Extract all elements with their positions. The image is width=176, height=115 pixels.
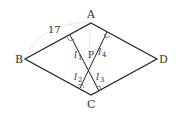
l4-label: l (98, 46, 101, 57)
rhombus-diagram: A B C D P 17 l 1 l 2 l 3 l 4 (0, 0, 176, 115)
l3-label: l (96, 71, 99, 82)
l2-label: l (74, 71, 77, 82)
l2-sub: 2 (78, 76, 82, 84)
vertex-D-label: D (159, 53, 168, 66)
l1-sub: 1 (78, 54, 82, 62)
side-length-label: 17 (48, 24, 61, 35)
vertex-C-label: C (87, 98, 95, 111)
diagram-canvas: A B C D P 17 l 1 l 2 l 3 l 4 (0, 0, 176, 115)
l4-sub: 4 (102, 51, 107, 59)
vertex-A-label: A (86, 8, 96, 21)
point-P-label: P (88, 50, 94, 60)
segment-l1-l3 (70, 35, 99, 91)
l3-sub: 3 (100, 76, 104, 84)
l1-label: l (74, 49, 77, 60)
vertex-B-label: B (15, 53, 23, 66)
